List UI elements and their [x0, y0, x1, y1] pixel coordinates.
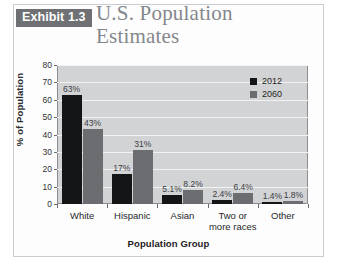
x-axis-tick-mark	[157, 204, 158, 208]
x-axis-tick-mark	[258, 204, 259, 208]
legend-swatch-icon	[250, 91, 257, 98]
bar: 6.4%	[233, 193, 253, 204]
bar: 5.1%	[162, 195, 182, 204]
bar: 43%	[83, 129, 103, 204]
bar: 63%	[62, 95, 82, 204]
y-axis-tick-label: 70	[43, 77, 52, 87]
bar-value-label: 8.2%	[183, 179, 202, 189]
x-axis-category-label: Asian	[171, 210, 195, 221]
page-title: U.S. Population Estimates	[96, 2, 321, 48]
x-axis-tick-mark	[308, 204, 309, 208]
exhibit-number-badge: Exhibit 1.3	[16, 9, 92, 27]
y-axis-title: % of Population	[14, 62, 25, 158]
chart-plot: 01020304050607080 63%43%17%31%5.1%8.2%2.…	[57, 65, 308, 204]
y-axis-tick-label: 40	[43, 130, 52, 140]
bar: 17%	[112, 174, 132, 204]
x-axis-tick-mark	[107, 204, 108, 208]
legend-label: 2060	[262, 89, 282, 99]
bar-value-label: 1.8%	[284, 190, 303, 200]
x-axis-tick-mark	[208, 204, 209, 208]
x-axis-category-label: White	[70, 210, 94, 221]
bar: 1.8%	[283, 201, 303, 204]
bar-value-label: 1.4%	[263, 191, 282, 201]
chart-legend: 20122060	[250, 75, 282, 101]
y-axis-tick-label: 80	[43, 60, 52, 70]
y-axis-tick-label: 30	[43, 147, 52, 157]
bar: 31%	[133, 150, 153, 204]
x-axis-title: Population Group	[14, 238, 323, 249]
x-axis-tick-mark	[57, 204, 58, 208]
x-axis-category-label: Hispanic	[114, 210, 150, 221]
page-title-line-2: Estimates	[96, 25, 321, 48]
page-title-line-1: U.S. Population	[96, 2, 321, 25]
x-axis-category-label-line: more races	[209, 221, 257, 232]
bar-value-label: 63%	[63, 84, 80, 94]
bar-value-label: 5.1%	[162, 184, 181, 194]
y-axis-tick-label: 60	[43, 95, 52, 105]
bar-value-label: 2.4%	[213, 189, 232, 199]
x-axis-category-label-line: Asian	[171, 210, 195, 221]
exhibit-figure: Exhibit 1.3 U.S. Population Estimates % …	[0, 0, 337, 270]
legend-item[interactable]: 2060	[250, 88, 282, 100]
bar: 8.2%	[183, 190, 203, 204]
bar-value-label: 17%	[113, 163, 130, 173]
y-axis-tick-label: 20	[43, 164, 52, 174]
bar-group: 63%43%	[62, 65, 103, 204]
x-axis-category-label-line: Hispanic	[114, 210, 150, 221]
y-axis-tick-label: 50	[43, 112, 52, 122]
x-axis-category-label-line: Other	[271, 210, 295, 221]
x-axis-category-label-line: White	[70, 210, 94, 221]
x-axis-category-label: Other	[271, 210, 295, 221]
legend-swatch-icon	[250, 78, 257, 85]
bar-group: 17%31%	[112, 65, 153, 204]
legend-label: 2012	[262, 76, 282, 86]
y-axis-tick-label: 0	[47, 199, 52, 209]
x-axis-category-label: Two ormore races	[209, 210, 257, 232]
legend-item[interactable]: 2012	[250, 75, 282, 87]
bar-value-label: 6.4%	[234, 182, 253, 192]
x-axis-category-label-line: Two or	[218, 210, 247, 221]
figure-header: Exhibit 1.3 U.S. Population Estimates	[14, 5, 323, 57]
bar: 1.4%	[262, 202, 282, 204]
bar-group: 5.1%8.2%	[162, 65, 203, 204]
bar-group: 2.4%6.4%	[212, 65, 253, 204]
y-axis-tick-label: 10	[43, 182, 52, 192]
bar-value-label: 31%	[134, 139, 151, 149]
bar-value-label: 43%	[84, 118, 101, 128]
bar: 2.4%	[212, 200, 232, 204]
